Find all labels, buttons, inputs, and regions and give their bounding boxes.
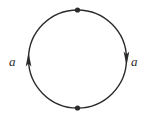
main-circle xyxy=(29,10,127,108)
left-arrow-label: a xyxy=(9,55,16,68)
bottom-point-marker xyxy=(75,105,80,110)
right-arrow-label: a xyxy=(131,55,138,68)
top-point-marker xyxy=(75,7,80,12)
figure-canvas: a a xyxy=(0,0,155,122)
